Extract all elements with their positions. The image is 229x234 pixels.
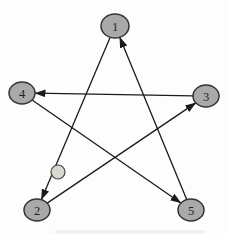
edge-5-to-1: [120, 37, 187, 199]
pentagram-graph-svg: 12345: [0, 0, 229, 234]
node-1-label: 1: [112, 20, 118, 34]
edge-2-to-3: [47, 103, 196, 203]
edge-3-to-4: [35, 93, 193, 96]
node-2-label: 2: [34, 204, 40, 218]
node-5-label: 5: [188, 204, 194, 218]
small-unlabeled-node: [51, 165, 65, 179]
edge-4-to-5: [32, 100, 181, 203]
node-3-label: 3: [203, 90, 209, 104]
node-4-label: 4: [19, 87, 26, 101]
scan-artifact: [55, 231, 205, 233]
nodes-layer: 12345: [9, 14, 219, 221]
graph-figure: 12345: [0, 0, 229, 234]
